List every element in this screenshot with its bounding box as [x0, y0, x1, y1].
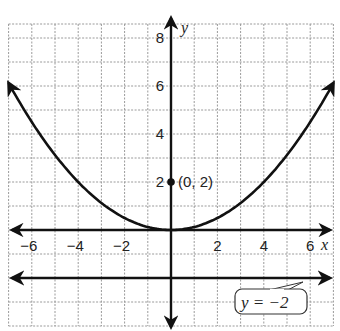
focus-point	[167, 178, 175, 186]
svg-text:6: 6	[156, 77, 164, 94]
svg-text:4: 4	[156, 125, 164, 142]
svg-text:−2: −2	[113, 237, 130, 254]
svg-text:8: 8	[156, 29, 164, 46]
x-tick-labels: −6−4−2246	[20, 237, 314, 254]
y-axis-label: y	[179, 19, 189, 37]
directrix-callout: y = −2	[235, 282, 307, 314]
x-axis-label: x	[320, 236, 328, 253]
svg-text:4: 4	[260, 237, 268, 254]
svg-text:−6: −6	[20, 237, 37, 254]
svg-text:2: 2	[213, 237, 221, 254]
svg-text:6: 6	[306, 237, 314, 254]
coordinate-graph: (0, 2) −6−4−2246 2468 x y y = −2	[0, 0, 340, 331]
directrix-equation-label: y = −2	[239, 293, 289, 312]
point-label: (0, 2)	[178, 173, 213, 190]
svg-text:2: 2	[156, 173, 164, 190]
svg-text:−4: −4	[67, 237, 84, 254]
